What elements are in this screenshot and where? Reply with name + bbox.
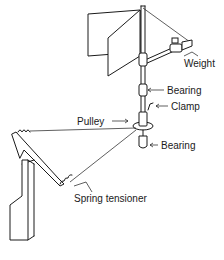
bracket-arm xyxy=(12,132,64,186)
counterweight-arm xyxy=(145,48,172,64)
wind-vane-diagram: Weight Bearing Clamp Pulley Bearing Spri… xyxy=(0,0,224,260)
vane-fin xyxy=(88,10,140,76)
clamp xyxy=(148,103,153,110)
pulley xyxy=(133,112,153,130)
label-bearing-upper: Bearing xyxy=(167,86,201,96)
arm-collar xyxy=(139,53,147,66)
weight xyxy=(170,38,192,52)
diagram-drawing xyxy=(0,0,224,260)
label-clamp: Clamp xyxy=(171,102,200,112)
label-spring-tensioner: Spring tensioner xyxy=(74,194,147,204)
label-weight: Weight xyxy=(184,59,215,69)
upper-bearing xyxy=(139,84,147,96)
label-pulley: Pulley xyxy=(77,117,104,127)
stay-wire xyxy=(143,8,190,42)
label-bearing-lower: Bearing xyxy=(161,141,195,151)
lower-bearing xyxy=(139,130,147,148)
cable xyxy=(30,128,136,182)
rudder-plate xyxy=(10,160,34,240)
